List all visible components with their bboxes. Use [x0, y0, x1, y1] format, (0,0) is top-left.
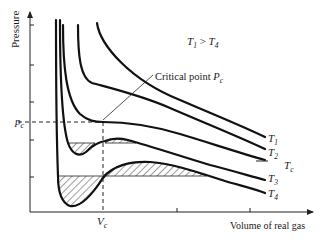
temperature-condition: T1 > T4: [187, 35, 219, 50]
curve-labels: T1 T2 Tc T3 T4: [268, 132, 294, 202]
y-ticks: [30, 25, 34, 177]
isotherm-t3: [60, 20, 265, 180]
hatched-areas: [58, 139, 207, 206]
vc-label: Vc: [97, 215, 108, 230]
t4-upper-lobe: [103, 162, 207, 176]
critical-point-label: Critical point Pc: [155, 71, 224, 85]
critical-point-leader: [103, 75, 153, 120]
real-gas-isotherm-diagram: Pressure Volume of real gas pc Vc Critic…: [0, 0, 329, 246]
x-axis-label: Volume of real gas: [230, 220, 305, 231]
y-axis-label: Pressure: [9, 11, 21, 48]
label-t4: T4: [268, 187, 278, 202]
label-t2: T2: [268, 146, 278, 161]
pc-label: pc: [14, 115, 25, 130]
label-tc: Tc: [284, 159, 294, 174]
label-t1: T1: [268, 132, 278, 147]
label-t3: T3: [268, 172, 278, 187]
x-ticks: [177, 208, 250, 212]
